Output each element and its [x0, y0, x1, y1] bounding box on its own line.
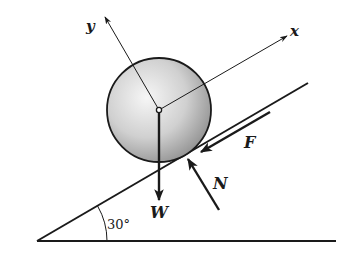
center-point [156, 107, 161, 112]
angle-label: 30° [107, 217, 130, 232]
weight-label: W [150, 203, 170, 222]
x-axis-label: x [289, 22, 300, 40]
angle-arc [98, 206, 107, 241]
free-body-diagram: 30° y x W N F [0, 0, 355, 270]
friction-force-label: F [243, 133, 257, 152]
friction-force-arrow [201, 112, 270, 152]
y-axis-label: y [85, 17, 96, 35]
normal-force-label: N [212, 174, 229, 193]
